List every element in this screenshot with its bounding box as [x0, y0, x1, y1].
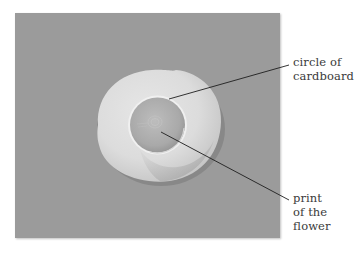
- label-line: cardboard: [293, 69, 354, 83]
- label-line: of the: [293, 205, 331, 219]
- label-print-of-the-flower: print of the flower: [293, 191, 331, 233]
- label-line: print: [293, 191, 331, 205]
- diagram-figure: circle of cardboard print of the flower: [0, 0, 357, 256]
- label-line: flower: [293, 219, 331, 233]
- label-circle-of-cardboard: circle of cardboard: [293, 55, 354, 83]
- label-line: circle of: [293, 55, 354, 69]
